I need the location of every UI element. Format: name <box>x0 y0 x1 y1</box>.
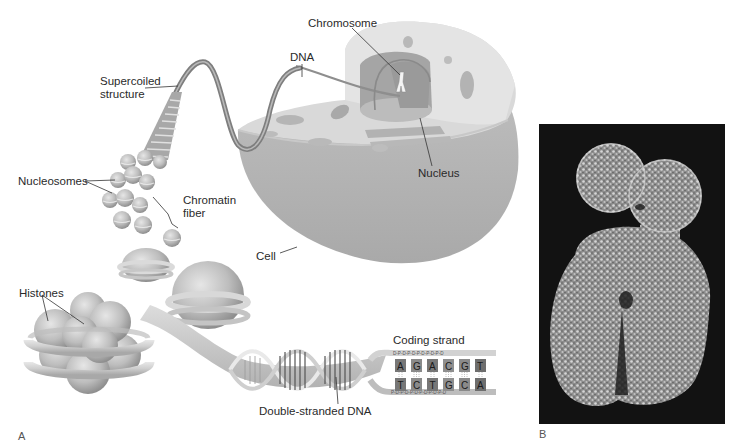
illustration-canvas: D-P-D-P-D-P-D-P-D-P-D P-D-P-D-P-D-P-D-P-… <box>0 0 735 447</box>
label-supercoiled-line2: structure <box>100 88 161 101</box>
cell-illustration <box>238 22 518 264</box>
sem-micrograph <box>539 124 725 424</box>
base-template-4: C <box>461 380 468 391</box>
figure: D-P-D-P-D-P-D-P-D-P-D P-D-P-D-P-D-P-D-P-… <box>0 0 735 447</box>
histone-octamer <box>28 292 150 394</box>
base-coding-2: A <box>429 361 436 372</box>
base-template-2: T <box>430 380 436 391</box>
coding-bases: A G A C G T <box>395 359 486 372</box>
base-template-5: A <box>477 380 484 391</box>
base-template-0: T <box>398 380 404 391</box>
nucleosome-medium <box>119 248 173 282</box>
base-template-1: C <box>413 380 420 391</box>
top-backbone: D-P-D-P-D-P-D-P-D-P-D <box>393 351 444 356</box>
base-coding-3: C <box>445 361 452 372</box>
label-chromatin-line2: fiber <box>183 207 236 220</box>
label-histones: Histones <box>19 287 64 300</box>
label-supercoiled-line1: Supercoiled <box>100 75 161 88</box>
base-coding-4: G <box>461 361 469 372</box>
label-nucleus: Nucleus <box>418 167 460 180</box>
panel-label-a: A <box>18 430 25 442</box>
base-template-3: G <box>445 380 453 391</box>
label-cell: Cell <box>256 250 276 263</box>
label-chromatin-line1: Chromatin <box>183 194 236 207</box>
label-coding-strand: Coding strand <box>393 334 465 347</box>
base-coding-1: G <box>413 361 421 372</box>
label-double-stranded-dna: Double-stranded DNA <box>259 405 372 418</box>
label-chromatin-fiber: Chromatin fiber <box>183 194 236 220</box>
label-chromosome: Chromosome <box>308 17 377 30</box>
label-dna: DNA <box>290 51 314 64</box>
nucleus <box>360 52 432 122</box>
label-supercoiled-structure: Supercoiled structure <box>100 75 161 101</box>
label-nucleosomes: Nucleosomes <box>18 175 88 188</box>
base-coding-5: T <box>477 361 483 372</box>
nucleosome-large <box>168 261 248 329</box>
panel-label-b: B <box>539 428 546 440</box>
base-pair-ladder: D-P-D-P-D-P-D-P-D-P-D P-D-P-D-P-D-P-D-P-… <box>391 351 486 395</box>
chromatin-fiber <box>102 150 181 247</box>
base-coding-0: A <box>397 361 404 372</box>
